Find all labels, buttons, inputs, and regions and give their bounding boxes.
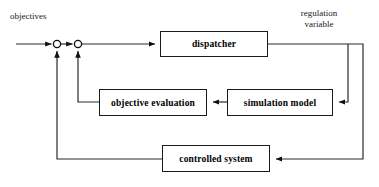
block-objective-evaluation[interactable]: objective evaluation bbox=[99, 89, 207, 116]
block-dispatcher[interactable]: dispatcher bbox=[160, 31, 268, 57]
wire-bus-to-simulation-model bbox=[339, 44, 348, 102]
control-system-block-diagram: objectives regulationvariable dispatcher… bbox=[0, 0, 379, 187]
wire-objective-evaluation-feedback bbox=[78, 51, 99, 102]
block-controlled-system[interactable]: controlled system bbox=[162, 145, 270, 172]
summing-junction-2 bbox=[74, 40, 81, 47]
block-simulation-model[interactable]: simulation model bbox=[227, 89, 333, 116]
regulation-variable-label: regulationvariable bbox=[290, 8, 348, 30]
regulation-variable-line-1: regulation bbox=[301, 8, 338, 18]
objectives-label: objectives bbox=[10, 11, 47, 22]
regulation-variable-line-2: variable bbox=[305, 19, 334, 29]
summing-junction-1 bbox=[53, 40, 60, 47]
